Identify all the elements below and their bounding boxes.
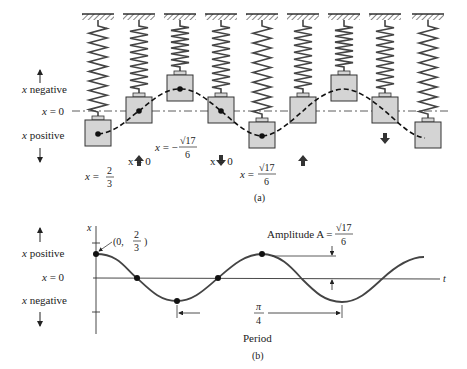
spring-coil xyxy=(376,20,394,93)
ceiling-hatch xyxy=(412,14,444,20)
mass-center-dot xyxy=(177,86,183,92)
ceiling-hatch xyxy=(246,14,278,20)
svg-text:x =: x = xyxy=(239,168,254,180)
label-x-negative: x negative xyxy=(21,83,67,95)
label-x-two-thirds: x = 2 3 xyxy=(84,165,114,189)
svg-text:Period: Period xyxy=(243,332,272,344)
spring-coil xyxy=(419,20,437,118)
ceiling-hatch xyxy=(123,14,155,20)
mass-center-dot xyxy=(95,131,101,137)
spring-mass-1 xyxy=(82,14,114,146)
ceiling-hatch xyxy=(369,14,401,20)
label-x-zero-2: x = 0 xyxy=(210,155,233,167)
label-initial-point: (0, 2 3 ) xyxy=(113,229,147,253)
mass-center-dot xyxy=(136,108,142,114)
label-x-zero-b: x = 0 xyxy=(41,271,65,283)
svg-text:6: 6 xyxy=(341,236,346,247)
label-period: π 4 Period xyxy=(243,301,272,344)
label-x-zero: x = 0 xyxy=(41,105,65,117)
mass-block xyxy=(415,122,441,148)
svg-text:x =: x = xyxy=(84,170,99,182)
svg-text:√17: √17 xyxy=(259,162,275,173)
arrow-down-icon xyxy=(380,133,390,144)
svg-text:√17: √17 xyxy=(336,222,352,233)
caption-b: (b) xyxy=(252,350,264,362)
svg-text:6: 6 xyxy=(264,176,269,187)
figure-b-graph: x t (0, 2 3 ) Amplitude A = √17 6 xyxy=(21,222,446,362)
spring-coil xyxy=(89,20,107,116)
spring-mass-9 xyxy=(412,14,444,148)
t-axis xyxy=(93,278,440,279)
label-x-negative-b: x negative xyxy=(21,294,67,306)
spring-coil xyxy=(171,20,189,71)
svg-text:2: 2 xyxy=(107,165,112,176)
spring-mass-6 xyxy=(287,14,319,123)
spring-mass-5 xyxy=(246,14,278,148)
label-x-positive-b: x positive xyxy=(21,247,65,259)
svg-text:): ) xyxy=(144,236,147,248)
axis-label-t: t xyxy=(443,273,446,284)
spring-coil xyxy=(130,20,148,93)
ceiling-hatch xyxy=(205,14,237,20)
spring-coil xyxy=(294,20,312,93)
axis-label-x: x xyxy=(86,222,92,233)
ceiling-hatch xyxy=(164,14,196,20)
spring-mass-2 xyxy=(123,14,155,123)
spring-coil xyxy=(212,20,230,93)
svg-text:2: 2 xyxy=(134,229,139,240)
svg-text:3: 3 xyxy=(134,242,139,253)
label-amplitude: Amplitude A = √17 6 xyxy=(267,222,353,247)
svg-text:6: 6 xyxy=(185,149,190,160)
svg-text:4: 4 xyxy=(256,315,261,326)
caption-a: (a) xyxy=(254,192,265,204)
ceiling-hatch xyxy=(287,14,319,20)
label-x-sqrt17-6: x = √17 6 xyxy=(239,162,276,187)
ceiling-hatch xyxy=(82,14,114,20)
label-x-neg-sqrt17-6: x = − √17 6 xyxy=(154,135,197,160)
mass-center-dot xyxy=(218,108,224,114)
label-x-zero-1: x = 0 xyxy=(128,155,151,167)
mass-center-dot xyxy=(259,133,265,139)
svg-text:√17: √17 xyxy=(180,135,196,146)
marked-points xyxy=(93,251,265,304)
svg-text:(0,: (0, xyxy=(113,236,124,248)
spring-mass-8 xyxy=(369,14,401,123)
svg-text:π: π xyxy=(256,301,262,312)
svg-text:Amplitude A =: Amplitude A = xyxy=(267,228,332,240)
spring-mass-diagram: x negative x = 0 x positive x = 2 3 x = … xyxy=(0,0,467,369)
spring-mass-4 xyxy=(205,14,237,123)
arrow-up-icon xyxy=(298,155,308,166)
label-x-positive: x positive xyxy=(21,129,65,141)
ceiling-hatch xyxy=(328,14,360,20)
svg-text:3: 3 xyxy=(107,178,112,189)
spring-coil xyxy=(253,20,271,118)
spring-coil xyxy=(335,20,353,71)
figure-a-springs: x negative x = 0 x positive x = 2 3 x = … xyxy=(21,14,450,204)
svg-text:x = −: x = − xyxy=(154,141,178,153)
